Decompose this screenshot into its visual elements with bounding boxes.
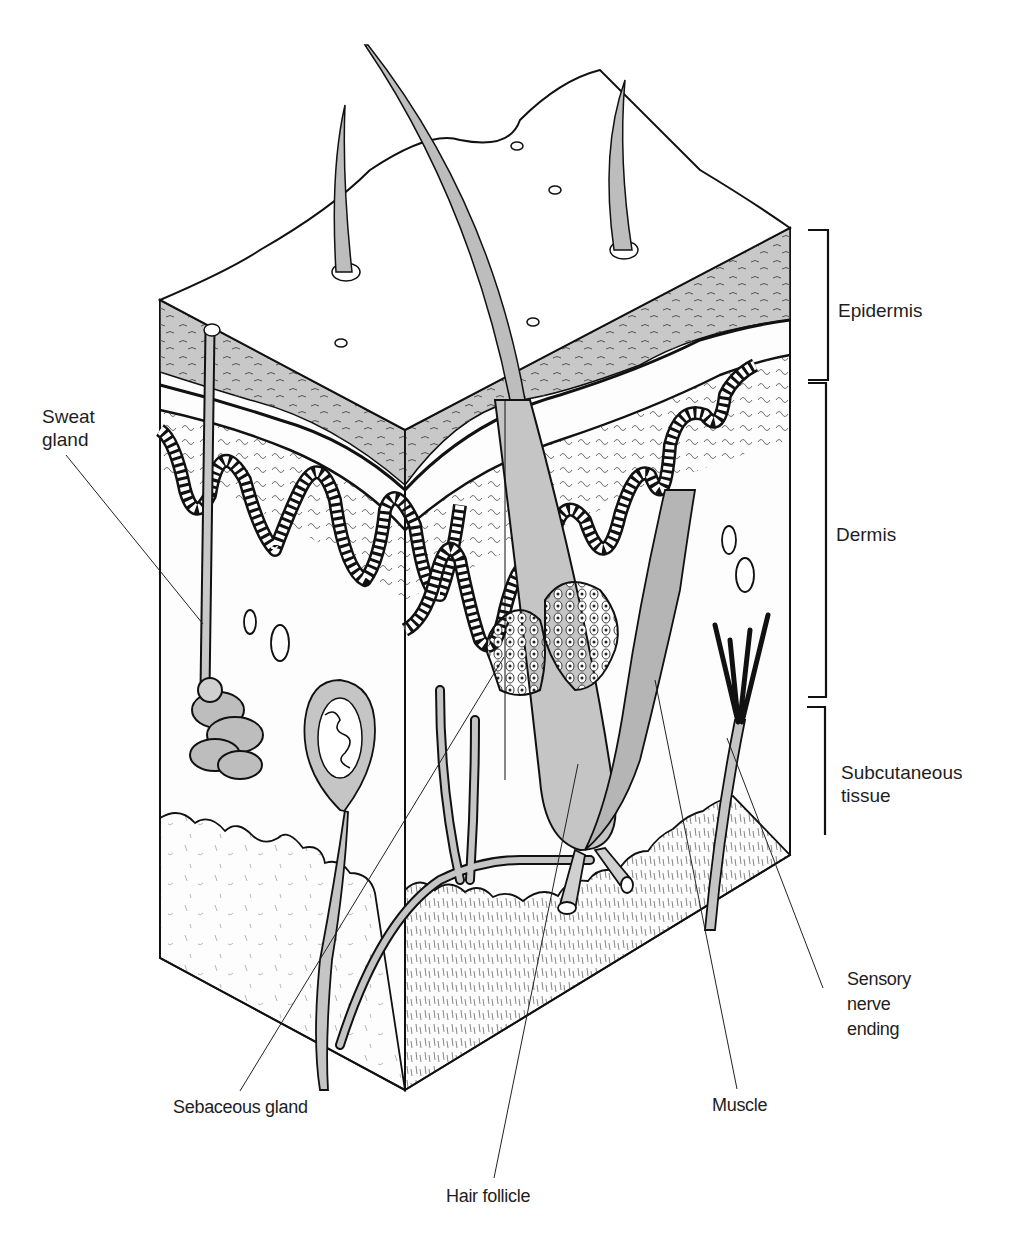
label-subcutaneous-tissue: Subcutaneous tissue: [841, 761, 963, 807]
skin-cross-section-diagram: [0, 0, 1028, 1245]
subcutaneous-bracket: [807, 707, 825, 835]
label-hair-follicle: Hair follicle: [446, 1185, 530, 1208]
label-sweat-gland: Sweat gland: [42, 405, 95, 451]
epidermis-bracket: [808, 230, 828, 380]
label-dermis: Dermis: [836, 523, 896, 546]
label-muscle: Muscle: [712, 1094, 767, 1117]
label-epidermis: Epidermis: [838, 299, 922, 322]
layer-brackets: [807, 230, 828, 835]
label-sensory-nerve-ending: Sensory nerve ending: [847, 967, 911, 1042]
skin-block: [160, 70, 790, 1090]
dermis-bracket: [808, 383, 826, 697]
label-sebaceous-gland: Sebaceous gland: [173, 1096, 308, 1119]
